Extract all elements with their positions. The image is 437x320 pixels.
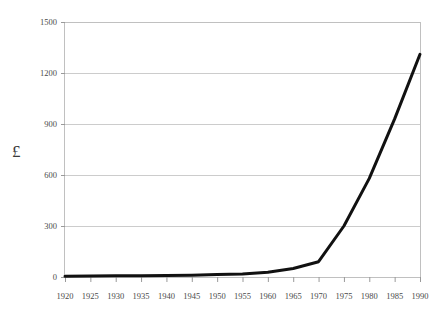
x-tick-label: 1960 <box>259 291 276 301</box>
x-tick-label: 1970 <box>310 291 327 301</box>
x-tick-label: 1965 <box>285 291 302 301</box>
data-series-line <box>65 54 420 276</box>
x-tick-label: 1985 <box>386 291 403 301</box>
y-tick-label: 0 <box>53 272 57 282</box>
x-tick-label: 1950 <box>209 291 226 301</box>
y-tick-label: 600 <box>44 170 57 180</box>
gridlines <box>65 74 420 227</box>
x-axis-ticks: 1920192519301935194019451950195519601965… <box>57 277 429 301</box>
line-chart-figure: £ 030060090012001500 1920192519301935194… <box>0 0 437 320</box>
x-tick-label: 1990 <box>412 291 429 301</box>
x-tick-label: 1925 <box>82 291 99 301</box>
y-tick-label: 1200 <box>40 68 57 78</box>
x-tick-label: 1920 <box>57 291 74 301</box>
x-tick-label: 1940 <box>158 291 175 301</box>
y-axis-ticks: 030060090012001500 <box>40 17 65 282</box>
y-tick-label: 300 <box>44 221 57 231</box>
y-tick-label: 1500 <box>40 17 57 27</box>
x-tick-label: 1945 <box>183 291 200 301</box>
x-tick-label: 1935 <box>133 291 150 301</box>
y-tick-label: 900 <box>44 119 57 129</box>
x-tick-label: 1930 <box>107 291 124 301</box>
x-tick-label: 1955 <box>234 291 251 301</box>
chart-plot-area: 030060090012001500 192019251930193519401… <box>0 0 437 320</box>
x-tick-label: 1975 <box>335 291 352 301</box>
plot-border <box>65 23 421 278</box>
x-tick-label: 1980 <box>361 291 378 301</box>
